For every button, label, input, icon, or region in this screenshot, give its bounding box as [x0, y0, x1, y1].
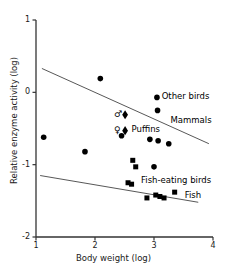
- y-tick-label: 1: [0, 16, 30, 24]
- puffins-label: Puffins: [132, 125, 160, 134]
- y-axis-title: Relative enzyme activity (log): [10, 12, 19, 229]
- point-square: [172, 190, 177, 195]
- fish-label: Fish: [185, 191, 201, 200]
- point-circle: [166, 141, 172, 147]
- y-tick-label: 0: [0, 88, 30, 96]
- x-tick-label: 2: [80, 242, 110, 250]
- point-circle: [155, 108, 161, 114]
- male-symbol: ♂: [114, 110, 122, 119]
- point-square: [129, 182, 134, 187]
- x-tick-label: 3: [139, 242, 169, 250]
- point-square: [144, 195, 149, 200]
- point-circle: [41, 134, 47, 140]
- point-square: [130, 158, 135, 163]
- female-symbol: ♀: [114, 126, 121, 135]
- point-square: [133, 164, 138, 169]
- y-tick-label: -1: [0, 161, 30, 169]
- other-birds-label: Other birds: [162, 92, 210, 101]
- plot-canvas: [0, 0, 227, 272]
- point-circle: [151, 164, 157, 170]
- point-circle: [155, 138, 161, 144]
- x-axis-title: Body weight (log): [0, 254, 227, 263]
- point-diamond: [122, 110, 128, 119]
- point-square: [162, 195, 167, 200]
- figure-scatter-plot: Body weight (log) Relative enzyme activi…: [0, 0, 227, 272]
- x-tick-label: 1: [21, 242, 51, 250]
- point-circle: [82, 149, 88, 155]
- x-tick-label: 4: [198, 242, 227, 250]
- point-circle: [154, 95, 160, 101]
- y-tick-label: -2: [0, 233, 30, 241]
- point-circle: [147, 137, 153, 143]
- mammals-label: Mammals: [171, 116, 212, 125]
- point-circle: [98, 76, 104, 82]
- fish-eating-birds-label: Fish-eating birds: [141, 176, 211, 185]
